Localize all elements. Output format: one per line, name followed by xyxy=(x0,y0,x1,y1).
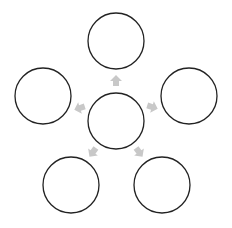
arrow-icon-to-left xyxy=(72,101,86,116)
circle-shape xyxy=(15,68,71,124)
radial-diagram xyxy=(0,0,232,228)
circle-shape xyxy=(43,157,99,213)
circle-shape xyxy=(88,13,144,69)
circle-shape xyxy=(88,93,144,149)
arrow-icon-to-bottom-left xyxy=(85,144,101,160)
node-circle-bottom-right xyxy=(134,157,190,213)
circle-shape xyxy=(161,68,217,124)
arrow-icon-to-top xyxy=(110,75,122,86)
diagram-canvas xyxy=(0,0,232,228)
hub-circle xyxy=(88,93,144,149)
node-circle-left xyxy=(15,68,71,124)
node-circle-top xyxy=(88,13,144,69)
node-circle-right xyxy=(161,68,217,124)
circle-shape xyxy=(134,157,190,213)
arrow-icon-to-right xyxy=(145,100,159,115)
arrow-icon-to-bottom-right xyxy=(131,144,147,160)
node-circle-bottom-left xyxy=(43,157,99,213)
